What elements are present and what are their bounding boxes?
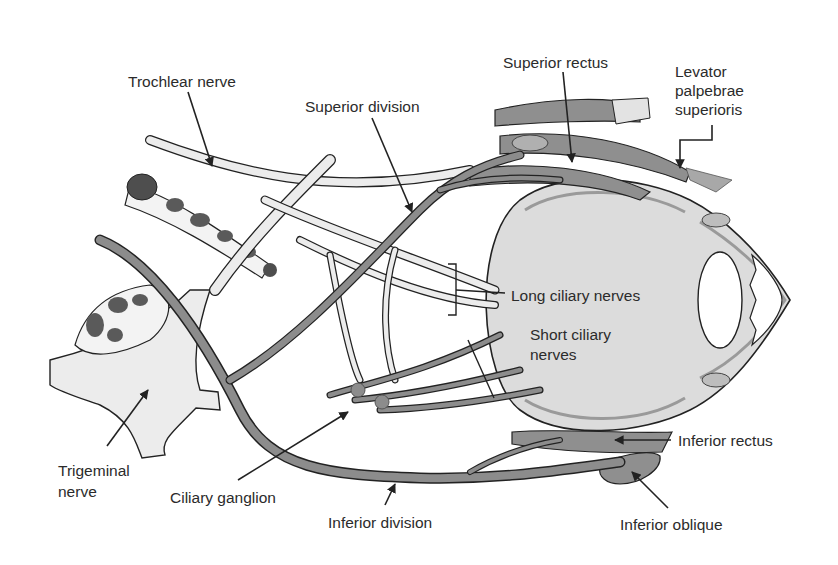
label-ciliary-ganglion: Ciliary ganglion — [170, 488, 276, 507]
label-levator-line1: Levator — [675, 62, 727, 81]
label-superior-division: Superior division — [305, 97, 420, 116]
label-trigeminal-line1: Trigeminal — [58, 461, 130, 480]
label-superior-rectus: Superior rectus — [503, 53, 608, 72]
label-inferior-rectus: Inferior rectus — [678, 431, 773, 450]
label-inferior-oblique: Inferior oblique — [620, 515, 723, 534]
label-levator-line2: palpebrae — [675, 81, 744, 100]
label-short-ciliary-line2: nerves — [530, 345, 577, 364]
label-levator-line3: superioris — [675, 100, 742, 119]
label-trochlear-nerve: Trochlear nerve — [128, 72, 236, 91]
oculomotor-anatomy-diagram: Trochlear nerve Superior division Superi… — [0, 0, 838, 565]
label-long-ciliary-nerves: Long ciliary nerves — [511, 286, 640, 305]
label-inferior-division: Inferior division — [328, 513, 432, 532]
label-trigeminal-line2: nerve — [58, 482, 97, 501]
label-short-ciliary-line1: Short ciliary — [530, 325, 611, 344]
